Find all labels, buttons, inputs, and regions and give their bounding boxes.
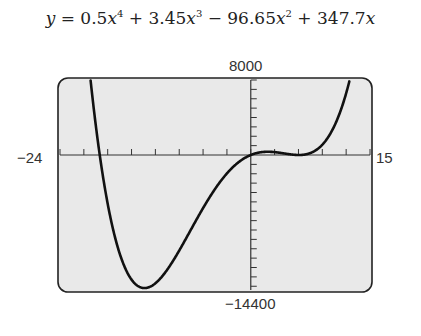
graph-screen — [0, 0, 421, 336]
